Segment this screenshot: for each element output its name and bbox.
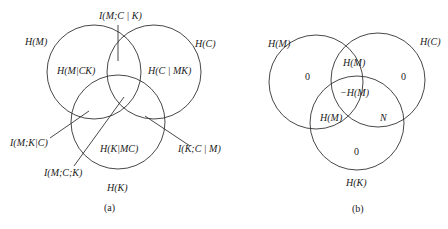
region-mck: I(M;C;K)	[43, 167, 83, 179]
venn-diagram-figure: H(M) H(C) H(K) I(M;C | K) H(M|CK) H(C | …	[0, 0, 448, 229]
region-m-only-a: H(M|CK)	[56, 65, 96, 77]
label-h-k-a: H(K)	[106, 182, 128, 194]
leader-mck	[74, 97, 124, 166]
region-mk-given-c: I(M;K|C)	[9, 137, 48, 149]
label-h-c-a: H(C)	[194, 38, 216, 50]
region-center-b: −H(M)	[340, 87, 370, 99]
label-h-m-a: H(M)	[24, 36, 48, 48]
region-kc-given-m: I(K;C | M)	[177, 143, 221, 155]
leader-kc-given-m	[145, 116, 190, 146]
label-h-k-b: H(K)	[345, 177, 367, 189]
region-m-only-b: 0	[305, 71, 310, 82]
region-mc-b: H(M)	[342, 57, 366, 69]
circle-k-a	[71, 75, 165, 169]
panel-b	[269, 33, 425, 170]
panel-b-labels: H(M) H(C) H(K) 0 0 H(M) −H(M) H(M) N 0 (…	[267, 36, 441, 215]
region-k-only-b: 0	[354, 146, 359, 157]
circle-m-b	[269, 35, 363, 129]
region-c-only-a: H(C | MK)	[147, 65, 192, 77]
label-h-m-b: H(M)	[267, 38, 291, 50]
region-k-only-a: H(K|MC)	[99, 143, 139, 155]
circle-c-b	[331, 33, 425, 127]
region-c-only-b: 0	[401, 71, 406, 82]
caption-a: (a)	[104, 202, 115, 214]
region-mc-given-k: I(M;C | K)	[98, 10, 142, 22]
region-ck-b: N	[379, 112, 388, 123]
caption-b: (b)	[352, 203, 364, 215]
label-h-c-b: H(C)	[419, 36, 441, 48]
leader-mk-given-c	[50, 111, 89, 138]
region-mk-b: H(M)	[319, 112, 343, 124]
